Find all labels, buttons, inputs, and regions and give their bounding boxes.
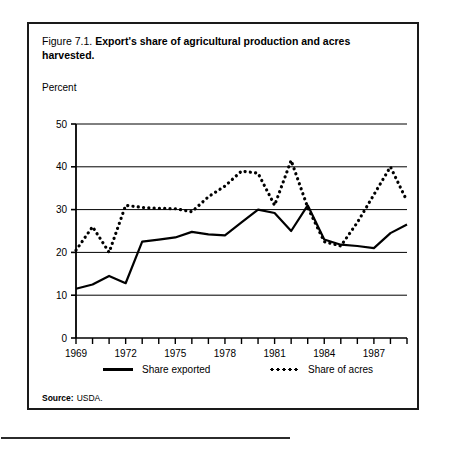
x-tick-label-1981: 1981	[263, 348, 286, 359]
x-tick-label-1975: 1975	[164, 348, 187, 359]
x-tick-label-1972: 1972	[115, 348, 138, 359]
figure-screenshot: Figure 7.1. Export's share of agricultur…	[0, 0, 451, 451]
y-tick-label-20: 20	[56, 247, 68, 258]
line-chart: 010203040501969197219751978198119841987	[29, 24, 421, 412]
legend-label-share-exported: Share exported	[142, 364, 210, 375]
chart-legend: Share exported Share of acres	[63, 364, 393, 380]
y-tick-label-50: 50	[56, 119, 68, 130]
source-label: Source:	[42, 393, 74, 403]
x-tick-label-1978: 1978	[214, 348, 237, 359]
source-note: Source:USDA.	[42, 393, 103, 403]
y-tick-label-0: 0	[61, 333, 67, 344]
series-line-share-of-acres	[76, 160, 407, 252]
x-tick-label-1969: 1969	[65, 348, 88, 359]
legend-item-share-exported: Share exported	[103, 364, 210, 375]
x-tick-label-1987: 1987	[363, 348, 386, 359]
dotted-line-swatch-icon	[269, 368, 299, 371]
legend-item-share-of-acres: Share of acres	[269, 364, 373, 375]
x-tick-label-1984: 1984	[313, 348, 336, 359]
y-tick-label-10: 10	[56, 290, 68, 301]
series-line-share-exported	[76, 205, 407, 288]
source-value: USDA.	[77, 393, 103, 403]
plot-area: 010203040501969197219751978198119841987	[29, 24, 421, 412]
figure-box: Figure 7.1. Export's share of agricultur…	[27, 22, 419, 410]
solid-line-swatch-icon	[103, 368, 133, 371]
legend-label-share-of-acres: Share of acres	[308, 364, 373, 375]
y-tick-label-30: 30	[56, 204, 68, 215]
page-footer-rule	[1, 437, 290, 439]
y-tick-label-40: 40	[56, 161, 68, 172]
